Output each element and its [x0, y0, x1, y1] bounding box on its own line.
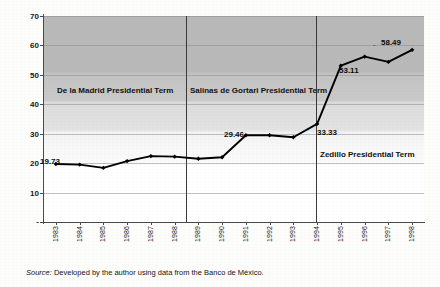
y-tick-0: -	[7, 218, 39, 226]
data-point-1988	[172, 154, 176, 158]
y-tick-10: 10	[7, 190, 39, 198]
x-tickmark-1986	[127, 222, 128, 225]
x-tick-1984: 1984	[76, 226, 84, 260]
y-axis-labels: 70 60 50 40 30 20 10 -	[0, 0, 39, 262]
data-point-1984	[77, 162, 81, 166]
x-tick-1988: 1988	[171, 226, 179, 260]
x-tick-1991: 1991	[242, 226, 250, 260]
x-tickmark-1983	[56, 222, 57, 225]
x-tickmark-1996	[365, 222, 366, 225]
y-tick-70: 70	[7, 13, 39, 21]
series-1-markers	[54, 48, 415, 170]
figure-container: 70 60 50 40 30 20 10 - 19831984198519861…	[0, 0, 440, 287]
x-tick-1996: 1996	[361, 226, 369, 260]
y-tick-20: 20	[7, 160, 39, 168]
x-tickmark-1998	[412, 222, 413, 225]
x-tick-1998: 1998	[408, 226, 416, 260]
data-point-1992	[267, 133, 271, 137]
x-tickmark-1985	[103, 222, 104, 225]
x-tick-1983: 1983	[52, 226, 60, 260]
x-tick-1997: 1997	[384, 226, 392, 260]
point-label-1983: 19.73	[40, 157, 60, 166]
x-tick-1985: 1985	[99, 226, 107, 260]
point-label-1995: 53.11	[339, 66, 359, 75]
x-tick-1987: 1987	[147, 226, 155, 260]
x-tickmark-1995	[341, 222, 342, 225]
x-tick-1993: 1993	[289, 226, 297, 260]
x-tick-1992: 1992	[266, 226, 274, 260]
y-tick-60: 60	[7, 42, 39, 50]
point-label-1991: 29.46	[224, 130, 244, 139]
x-tick-1986: 1986	[123, 226, 131, 260]
x-tickmark-1992	[270, 222, 271, 225]
x-tick-1995: 1995	[337, 226, 345, 260]
source-caption-text: Developed by the author using data from …	[52, 268, 264, 277]
source-caption-label: Source:	[26, 268, 52, 277]
data-point-1986	[125, 159, 129, 163]
x-axis-line	[43, 222, 425, 223]
y-tick-40: 40	[7, 101, 39, 109]
x-tickmark-1989	[198, 222, 199, 225]
y-tick-50: 50	[7, 72, 39, 80]
x-tick-1994: 1994	[313, 226, 321, 260]
chart-area: 70 60 50 40 30 20 10 - 19831984198519861…	[0, 0, 440, 262]
x-tick-1989: 1989	[194, 226, 202, 260]
point-label-1994: 33.33	[317, 128, 337, 137]
source-caption: Source: Developed by the author using da…	[26, 268, 264, 278]
x-tickmark-1993	[293, 222, 294, 225]
x-tickmark-1990	[222, 222, 223, 225]
x-tickmark-1987	[151, 222, 152, 225]
data-series-layer	[44, 16, 424, 222]
x-tick-1990: 1990	[218, 226, 226, 260]
x-tickmark-1997	[388, 222, 389, 225]
y-tickmark-0	[40, 222, 44, 223]
x-tickmark-1988	[175, 222, 176, 225]
x-tickmark-1991	[246, 222, 247, 225]
x-tickmark-1994	[317, 222, 318, 225]
data-point-1985	[101, 166, 105, 170]
point-label-1998-leader: -	[373, 40, 376, 49]
y-tick-30: 30	[7, 131, 39, 139]
x-tickmark-1984	[80, 222, 81, 225]
data-point-1987	[149, 154, 153, 158]
data-point-1989	[196, 157, 200, 161]
point-label-1998: 58.49	[381, 38, 401, 47]
